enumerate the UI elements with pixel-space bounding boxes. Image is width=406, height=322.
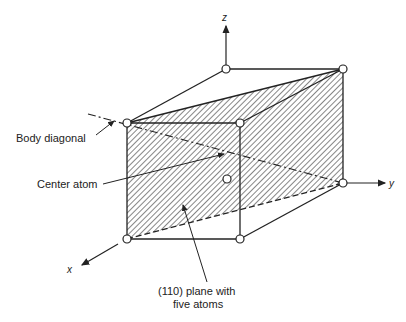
y-axis-label: y — [388, 178, 395, 189]
body-diagonal-label: Body diagonal — [16, 132, 86, 144]
atom-back-top-left — [222, 65, 230, 73]
center-atom-label: Center atom — [37, 178, 98, 190]
atom-front-bottom-left — [123, 235, 131, 243]
atom-center — [223, 175, 231, 183]
z-axis-label: z — [221, 12, 227, 23]
plane-label-line1: (110) plane with — [158, 285, 235, 297]
atom-front-bottom-right — [236, 235, 244, 243]
atom-back-top-right — [339, 65, 347, 73]
plane-label-line2: five atoms — [173, 298, 224, 310]
plane-110-hatch — [127, 69, 343, 239]
atom-back-bottom-right — [339, 179, 347, 187]
x-axis-label: x — [66, 264, 73, 275]
bcc-unit-cell-diagram: z y x Body diagonal Center atom (110) pl… — [0, 0, 406, 322]
x-axis-arrow — [82, 244, 118, 265]
atom-front-top-left — [123, 119, 131, 127]
body-diagonal-leader — [96, 121, 114, 135]
atom-front-top-right — [236, 119, 244, 127]
